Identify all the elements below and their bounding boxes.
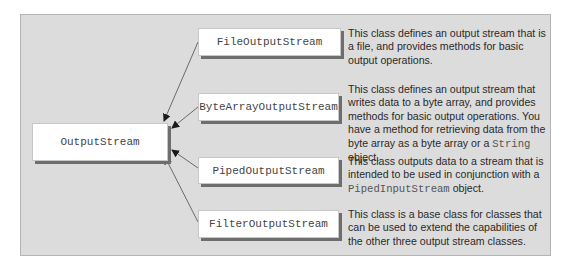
filteroutputstream-class-box: FilterOutputStream: [198, 210, 339, 238]
bytearrayoutputstream-label: ByteArrayOutputStream: [199, 101, 338, 113]
string-class-code: String: [492, 138, 530, 150]
pipedoutputstream-class-box: PipedOutputStream: [198, 157, 339, 184]
bytearrayoutputstream-description: This class defines an output stream that…: [348, 83, 548, 164]
arrow-piped-to-output: [172, 150, 198, 168]
fileoutputstream-class-box: FileOutputStream: [198, 28, 341, 56]
fileoutputstream-description: This class defines an output stream that…: [348, 27, 548, 67]
pipedinputstream-class-code: PipedInputStream: [348, 183, 450, 195]
arrow-bytearray-to-output: [172, 107, 198, 128]
pipedoutputstream-description: This class outputs data to a stream that…: [348, 155, 548, 196]
bytearrayoutputstream-class-box: ByteArrayOutputStream: [198, 93, 339, 121]
pipedoutputstream-label: PipedOutputStream: [212, 165, 324, 177]
arrow-filter-to-output: [165, 157, 198, 222]
filteroutputstream-description: This class is a base class for classes t…: [348, 208, 548, 248]
outputstream-label: OutputStream: [60, 136, 139, 148]
arrow-file-to-output: [164, 42, 198, 121]
fileoutputstream-label: FileOutputStream: [217, 36, 323, 48]
filteroutputstream-label: FilterOutputStream: [209, 218, 328, 230]
outputstream-class-box: OutputStream: [32, 123, 168, 161]
